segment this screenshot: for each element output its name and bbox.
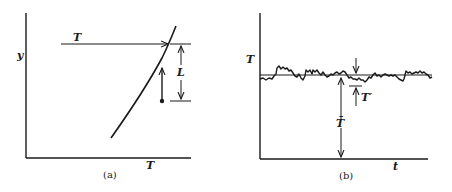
fluctuating-temperature-signal [260,66,432,82]
mean-t-label: T̄ [336,116,345,130]
bracket-l-label: L [176,66,185,79]
panel-b-y-label: T [246,53,255,66]
panel-b-caption: (b) [339,170,353,181]
incoming-t-label: T [73,31,82,44]
panel-a: y T T L (a) [16,13,191,180]
panel-a-caption: (a) [103,169,117,180]
panel-a-y-label: y [16,49,25,62]
figure: y T T L (a) T t T̄ T′ [0,0,452,192]
panel-b-x-label: t [393,160,398,173]
temperature-profile-curve [111,26,176,138]
panel-a-x-label: T [146,159,155,172]
fluctuation-t-prime-label: T′ [361,91,372,104]
panel-b: T t T̄ T′ (b) [246,13,432,181]
